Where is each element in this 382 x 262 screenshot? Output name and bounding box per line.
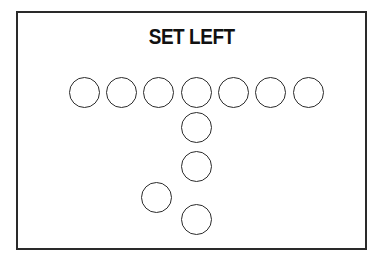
player-circle-fullback — [181, 151, 212, 182]
player-circle-quarterback — [181, 112, 212, 143]
player-circle-line-2 — [106, 77, 137, 108]
player-circle-line-center — [181, 77, 212, 108]
player-circle-halfback-left — [141, 182, 172, 213]
player-circle-line-7 — [293, 77, 324, 108]
player-circle-line-3 — [143, 77, 174, 108]
player-circle-line-1 — [69, 77, 100, 108]
player-circle-tailback — [181, 204, 212, 235]
player-circle-line-5 — [218, 77, 249, 108]
formation-title: SET LEFT — [27, 27, 356, 47]
player-circle-line-6 — [255, 77, 286, 108]
